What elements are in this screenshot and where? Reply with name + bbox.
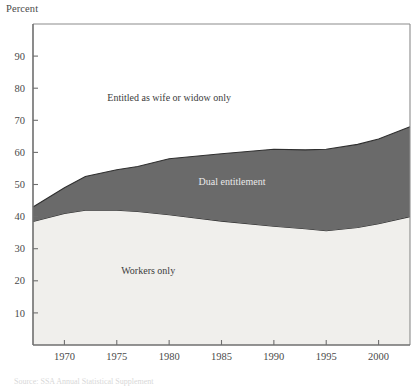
series-annotation-2: Workers only bbox=[121, 265, 175, 276]
series-annotation-0: Entitled as wife or widow only bbox=[107, 92, 231, 103]
y-tick-label: 60 bbox=[15, 147, 26, 158]
y-tick-label: 10 bbox=[15, 308, 26, 319]
x-tick-label: 1975 bbox=[106, 351, 127, 362]
y-tick-label: 40 bbox=[15, 211, 26, 222]
y-tick-label: 90 bbox=[15, 51, 26, 62]
y-tick-label: 20 bbox=[15, 275, 26, 286]
y-tick-label: 70 bbox=[15, 115, 26, 126]
area-workers-only bbox=[33, 210, 410, 345]
area-chart-plot: 102030405060708090 197019751980198519901… bbox=[0, 0, 419, 386]
y-tick-label: 50 bbox=[15, 179, 26, 190]
x-tick-label: 1970 bbox=[54, 351, 75, 362]
x-tick-label: 1980 bbox=[159, 351, 180, 362]
x-tick-label: 1985 bbox=[211, 351, 232, 362]
y-tick-label: 30 bbox=[15, 243, 26, 254]
y-tick-label: 80 bbox=[15, 83, 26, 94]
x-tick-label: 2000 bbox=[368, 351, 389, 362]
chart-figure: Percent 102030405060708090 1970197519801… bbox=[0, 0, 419, 386]
series-annotation-1: Dual entitlement bbox=[199, 176, 266, 187]
x-tick-label: 1990 bbox=[263, 351, 284, 362]
x-tick-label: 1995 bbox=[316, 351, 337, 362]
source-footnote: Source: SSA Annual Statistical Supplemen… bbox=[14, 377, 414, 386]
